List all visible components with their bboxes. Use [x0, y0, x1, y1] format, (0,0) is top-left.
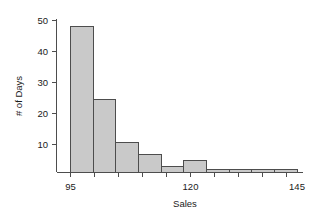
y-tick-label-10: 10 [37, 139, 48, 150]
y-tick-label-50: 50 [37, 15, 48, 26]
y-tick-label-20: 20 [37, 108, 48, 119]
histogram-bar [138, 154, 161, 172]
histogram-bar [206, 169, 229, 172]
histogram-plot: 10 20 30 40 50 # of Days 95 120 145 Sale… [0, 0, 310, 214]
histogram-bar [252, 169, 275, 172]
x-tick-label-145: 145 [289, 181, 305, 192]
histogram-bar [229, 169, 252, 172]
histogram-bar [274, 169, 297, 172]
histogram-bar [184, 160, 207, 172]
histogram-bar [161, 166, 184, 172]
histogram-bar [71, 27, 94, 173]
y-axis-title: # of Days [13, 76, 24, 116]
histogram-bar [116, 142, 139, 172]
x-axis-title: Sales [173, 198, 197, 209]
plot-background [0, 0, 310, 214]
x-tick-label-95: 95 [65, 181, 76, 192]
x-tick-label-120: 120 [183, 181, 199, 192]
y-tick-label-40: 40 [37, 46, 48, 57]
y-tick-label-30: 30 [37, 77, 48, 88]
histogram-figure: 10 20 30 40 50 # of Days 95 120 145 Sale… [0, 0, 310, 214]
histogram-bar [93, 100, 116, 173]
